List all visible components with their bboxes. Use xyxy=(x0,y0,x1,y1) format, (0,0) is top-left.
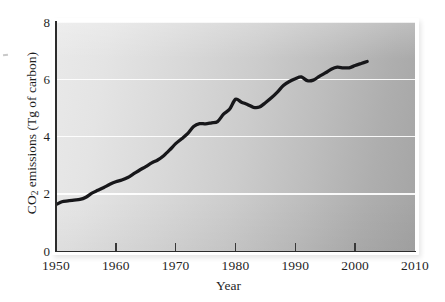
y-axis-line xyxy=(55,21,57,252)
y-axis-title: CO2 emissions (Tg of carbon) xyxy=(24,15,40,251)
x-tick-label-1990: 1990 xyxy=(265,258,325,273)
x-tick-label-1960: 1960 xyxy=(86,258,146,273)
y-axis-title-post: emissions (Tg of carbon) xyxy=(24,52,39,191)
x-tick-label-1950: 1950 xyxy=(26,258,86,273)
x-tick-label-1970: 1970 xyxy=(146,258,206,273)
co2-series-plot xyxy=(56,22,415,251)
x-axis-line xyxy=(55,251,416,253)
co2-emissions-line-chart-figure: 02468 1950196019701980199020002010 Year … xyxy=(0,0,445,302)
x-axis-title: Year xyxy=(0,278,445,294)
x-tick-label-1980: 1980 xyxy=(206,258,266,273)
x-tick-label-2000: 2000 xyxy=(325,258,385,273)
plot-area xyxy=(56,22,415,251)
y-axis-title-pre: CO xyxy=(24,195,39,214)
y-axis-title-subscript: 2 xyxy=(30,191,40,196)
x-tick-label-2010: 2010 xyxy=(385,258,445,273)
co2-series-line xyxy=(56,62,367,205)
